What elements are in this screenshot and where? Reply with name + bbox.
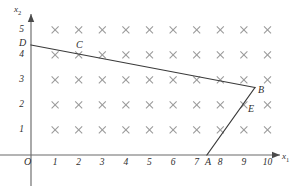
point-label-c: C [76, 40, 83, 50]
x-tick-label-7: 7 [189, 158, 205, 168]
lattice-mark [264, 126, 271, 133]
lattice-mark [52, 76, 59, 83]
lattice-mark [122, 126, 129, 133]
lattice-mark [75, 101, 82, 108]
lattice-mark [193, 101, 200, 108]
lattice-mark [99, 101, 106, 108]
x-tick-label-6: 6 [165, 158, 181, 168]
x-tick-label-2: 2 [71, 158, 87, 168]
y-tick-label-2: 2 [10, 100, 24, 110]
x-tick-label-9: 9 [236, 158, 252, 168]
lattice-mark [75, 76, 82, 83]
lattice-mark [217, 26, 224, 33]
lattice-mark [193, 26, 200, 33]
y-tick-label-5: 5 [10, 25, 24, 35]
y-axis-arrowhead [28, 14, 34, 22]
lattice-mark [75, 26, 82, 33]
lattice-mark [193, 51, 200, 58]
lattice-mark [170, 76, 177, 83]
x-tick-label-8: 8 [212, 158, 228, 168]
lattice-mark [170, 26, 177, 33]
lattice-marks-group [52, 26, 271, 133]
x-tick-label-10: 10 [259, 158, 275, 168]
point-label-b: B [258, 85, 264, 95]
lattice-mark [99, 126, 106, 133]
figure-container: x2 x1 O 1 2 3 4 5 6 7 8 9 10 5 4 3 2 1 D… [0, 0, 303, 186]
lattice-mark [146, 76, 153, 83]
lattice-mark [99, 51, 106, 58]
x-tick-label-3: 3 [94, 158, 110, 168]
lattice-mark [170, 126, 177, 133]
lattice-mark [99, 26, 106, 33]
lattice-mark [193, 126, 200, 133]
lattice-mark [146, 51, 153, 58]
lattice-mark [146, 126, 153, 133]
lattice-mark [264, 51, 271, 58]
x-axis-label: x1 [282, 152, 289, 163]
point-label-d: D [19, 38, 26, 48]
lattice-mark [170, 101, 177, 108]
lattice-mark [146, 26, 153, 33]
lattice-mark [52, 101, 59, 108]
lattice-mark [122, 76, 129, 83]
lattice-mark [122, 101, 129, 108]
lattice-mark [217, 101, 224, 108]
y-tick-label-3: 3 [10, 75, 24, 85]
point-label-a: A [205, 157, 211, 167]
lattice-mark [264, 101, 271, 108]
lattice-mark [264, 26, 271, 33]
x-tick-label-5: 5 [141, 158, 157, 168]
lattice-mark [99, 76, 106, 83]
lattice-mark [170, 51, 177, 58]
point-label-e: E [248, 104, 254, 114]
y-axis-label: x2 [14, 5, 21, 16]
origin-label: O [24, 157, 31, 167]
x-tick-label-4: 4 [118, 158, 134, 168]
lattice-mark [240, 51, 247, 58]
constraint-line-db [31, 45, 255, 88]
constraint-line-ab [207, 88, 255, 156]
x-tick-label-1: 1 [47, 158, 63, 168]
lattice-mark [122, 26, 129, 33]
lattice-mark [240, 26, 247, 33]
lattice-mark [122, 51, 129, 58]
lattice-mark [240, 126, 247, 133]
lattice-mark [52, 126, 59, 133]
lattice-mark [240, 76, 247, 83]
lattice-mark [52, 51, 59, 58]
lattice-mark [146, 101, 153, 108]
y-tick-label-4: 4 [10, 50, 24, 60]
lattice-mark [217, 51, 224, 58]
y-tick-label-1: 1 [10, 125, 24, 135]
lattice-mark [75, 126, 82, 133]
lattice-mark [264, 76, 271, 83]
lattice-mark [52, 26, 59, 33]
